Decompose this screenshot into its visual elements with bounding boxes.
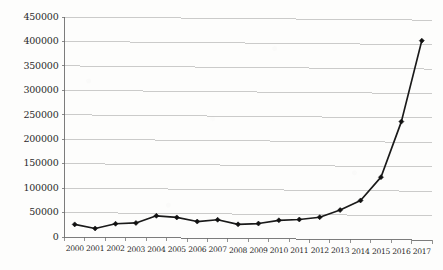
x-axis-tick-label: 2004: [147, 245, 165, 254]
x-axis-tick-label: 2011: [290, 246, 308, 255]
x-axis-tick-label: 2006: [188, 245, 206, 254]
x-axis-tick-label: 2012: [311, 246, 329, 255]
x-axis-tick-label: 2013: [331, 246, 349, 255]
x-axis-tick-label: 2016: [392, 247, 410, 256]
x-axis-tick-label: 2009: [249, 246, 267, 255]
chart-page: 0500001000001500002000002500003000003500…: [0, 0, 443, 270]
x-axis-tick-label: 2017: [413, 247, 431, 256]
x-axis-tick-label: 2010: [270, 246, 288, 255]
x-axis-tick-label: 2000: [66, 244, 84, 253]
x-axis-tick-label: 2008: [229, 246, 247, 255]
x-axis-tick-label: 2015: [372, 247, 390, 256]
x-axis-tick-label: 2005: [168, 245, 186, 254]
x-axis-tick-label: 2002: [106, 244, 124, 253]
x-axis-tick-label: 2001: [86, 244, 104, 253]
x-axis-labels: 2000200120022003200420052006200720082009…: [0, 0, 443, 270]
x-axis-tick-label: 2003: [127, 245, 145, 254]
x-axis-tick-label: 2007: [209, 245, 227, 254]
x-axis-tick-label: 2014: [351, 247, 369, 256]
